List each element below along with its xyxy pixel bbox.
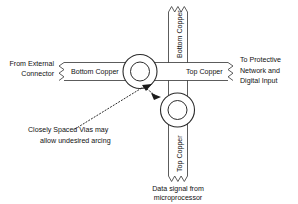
right-dest-label-line2: Network and	[240, 67, 280, 75]
vertical-top-trace-label: Bottom Copper	[176, 10, 184, 58]
via-upper-hole	[131, 62, 150, 81]
vertical-bottom-trace-label: Top Copper	[176, 135, 184, 172]
right-dest-label-line1: To Protective	[240, 56, 281, 64]
left-source-label-line1: From External	[9, 60, 54, 68]
via-lower	[161, 93, 195, 127]
arc-dotted-line	[75, 86, 145, 129]
zigzag-break-icon-right	[228, 63, 233, 81]
horizontal-right-trace-label: Top Copper	[186, 68, 223, 76]
bottom-source-label-line1: Data signal from	[152, 185, 204, 193]
left-source-label-line2: Connector	[21, 70, 54, 78]
annotation-label-line1: Closely Spaced Vias may	[28, 126, 109, 134]
zigzag-break-icon-left	[59, 63, 64, 81]
pcb-via-arcing-diagram: Bottom Copper Bottom Copper Top Copper T…	[0, 0, 298, 204]
via-lower-hole	[168, 101, 187, 120]
bottom-source-label-line2: microprocessor	[154, 194, 203, 202]
via-upper	[123, 55, 157, 89]
arc-dotted-line-branch	[147, 89, 156, 96]
right-dest-label-line3: Digital Input	[240, 77, 277, 85]
annotation-label-line2: allow undesired arcing	[40, 137, 111, 145]
dotted-arc-arrow-icon	[75, 84, 161, 129]
horizontal-left-trace-label: Bottom Copper	[71, 68, 119, 76]
arc-arrowhead-lower	[151, 93, 161, 100]
zigzag-break-icon-bottom	[169, 176, 188, 182]
